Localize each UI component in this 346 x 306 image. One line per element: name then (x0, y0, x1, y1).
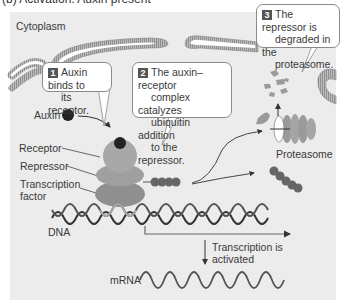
transcription-activated-line1: Transcription is (212, 241, 283, 253)
step-1-callout: 1Auxin binds to its receptor. (42, 62, 112, 92)
step-1-badge: 1 (48, 68, 58, 78)
dna-label: DNA (48, 226, 70, 238)
cytoplasm-label: Cytoplasm (16, 20, 66, 32)
repressor-label: Repressor (20, 160, 68, 172)
transcription-activated-line2: activated (212, 253, 254, 265)
er-membrane-left (12, 62, 42, 88)
step-2-badge: 2 (138, 68, 148, 78)
ubiquitinated-repressor (270, 167, 303, 193)
er-membrane-right (185, 36, 258, 52)
proteasome-label: Proteasome (276, 148, 333, 160)
repressor-fragment (256, 112, 270, 124)
degraded-peptides (264, 70, 289, 97)
transcription-factor-label-line1: Transcription (20, 178, 80, 190)
transcription-factor-label-line2: factor (20, 190, 46, 202)
mrna-label: mRNA (110, 274, 141, 286)
step-3-badge: 3 (262, 10, 272, 20)
bound-auxin (114, 137, 126, 149)
proteasome-shape (270, 114, 316, 144)
er-membrane-far-right (318, 69, 336, 104)
step-2-callout: 2The auxin–receptor complex catalyzes ub… (132, 62, 232, 118)
mrna-strand (140, 272, 284, 288)
step-3-callout: 3The repressor is degraded in the protea… (256, 4, 340, 48)
auxin-label: Auxin (34, 109, 60, 121)
ubiquitin-chain (151, 178, 181, 187)
dna-helix (52, 204, 268, 224)
receptor-label: Receptor (19, 142, 62, 154)
